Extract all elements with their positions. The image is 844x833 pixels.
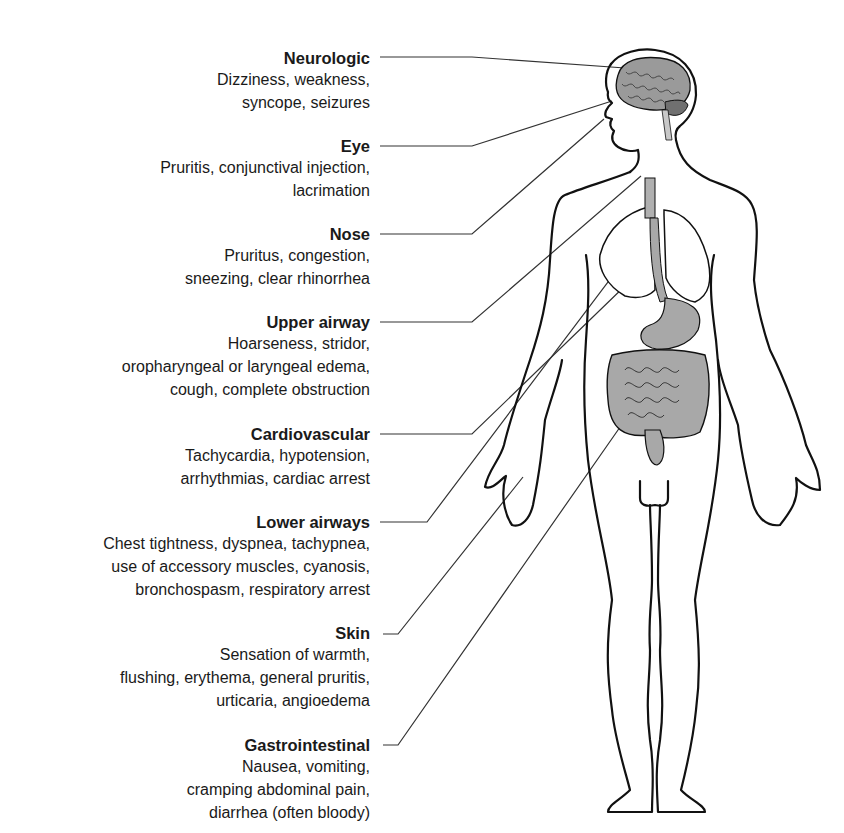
stomach [641,298,700,349]
intestines [607,350,709,438]
leader-line-nose [380,119,604,234]
leader-line-eye [380,101,612,146]
human-body-figure [0,0,844,833]
leader-line-skin [383,477,523,634]
rectum [645,430,664,465]
leader-line-neurologic [380,57,625,68]
trachea [645,178,655,218]
